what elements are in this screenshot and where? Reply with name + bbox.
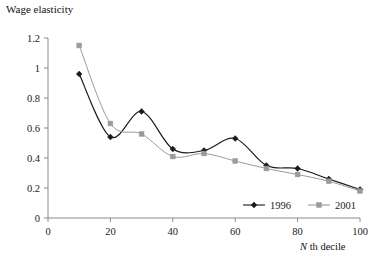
y-tick-label: 1.2	[27, 33, 40, 44]
data-point-2001	[202, 151, 207, 156]
x-tick-label: 40	[168, 226, 179, 237]
x-tick-label: 100	[352, 226, 368, 237]
data-point-2001	[233, 159, 238, 164]
data-point-2001	[358, 189, 363, 194]
y-tick-label: 0.2	[27, 183, 40, 194]
series-group	[79, 46, 360, 192]
chart-legend: 19962001	[243, 200, 356, 211]
x-tick-label: 80	[292, 226, 303, 237]
x-axis-tick-group: 020406080100	[45, 218, 368, 237]
data-point-2001	[295, 172, 300, 177]
x-tick-label: 20	[105, 226, 116, 237]
x-tick-label: 0	[45, 226, 50, 237]
data-point-1996	[76, 71, 82, 77]
data-point-1996	[295, 166, 301, 172]
data-point-2001	[326, 179, 331, 184]
y-axis-tick-group: 00.20.40.60.811.2	[27, 33, 48, 224]
legend-label-2001: 2001	[335, 200, 356, 211]
y-tick-label: 0.6	[27, 123, 40, 134]
x-tick-label: 60	[230, 226, 241, 237]
plot-area: 00.20.40.60.811.2 020406080100 19962001	[0, 0, 379, 270]
data-point-2001	[108, 121, 113, 126]
y-tick-label: 1	[35, 63, 40, 74]
data-point-2001	[139, 132, 144, 137]
legend-square-icon	[317, 203, 322, 208]
data-point-2001	[170, 154, 175, 159]
data-point-1996	[139, 109, 145, 115]
wage-elasticity-chart: Wage elasticity N th decile 00.20.40.60.…	[0, 0, 379, 270]
legend-diamond-icon	[251, 202, 257, 208]
series-line-2001	[79, 46, 360, 192]
series-marker-group	[76, 43, 363, 193]
y-tick-label: 0.4	[27, 153, 41, 164]
y-tick-label: 0	[35, 213, 40, 224]
legend-label-1996: 1996	[270, 200, 291, 211]
data-point-1996	[232, 136, 238, 142]
data-point-2001	[264, 166, 269, 171]
y-tick-label: 0.8	[27, 93, 40, 104]
data-point-2001	[77, 43, 82, 48]
